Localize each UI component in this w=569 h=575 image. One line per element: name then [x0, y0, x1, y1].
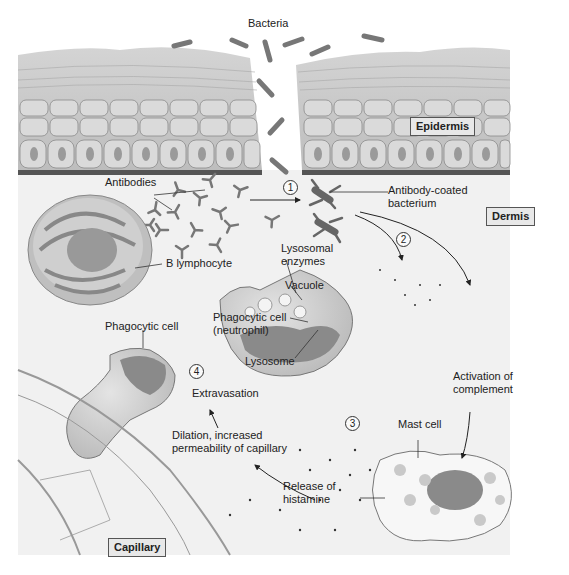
step-2-marker: 2: [396, 232, 411, 247]
label-lysosomal-1: Lysosomal: [281, 242, 333, 255]
label-extravasation: Extravasation: [192, 387, 259, 400]
label-lysosomal-2: enzymes: [281, 255, 325, 268]
label-vacuole: Vacuole: [285, 279, 324, 292]
label-activation-1: Activation of: [453, 370, 513, 383]
label-dilation-2: permeability of capillary: [172, 442, 287, 455]
label-lysosome: Lysosome: [245, 355, 295, 368]
label-antibody-coated-2: bacterium: [388, 197, 436, 210]
label-b-lymphocyte: B lymphocyte: [166, 257, 232, 270]
mast-cell: [373, 451, 512, 541]
label-histamine-1: Release of: [283, 480, 336, 493]
label-activation-2: complement: [453, 383, 513, 396]
step-3-marker: 3: [345, 416, 360, 431]
label-antibody-coated-1: Antibody-coated: [388, 184, 468, 197]
label-antibodies: Antibodies: [105, 176, 156, 189]
label-dilation-1: Dilation, increased: [172, 429, 263, 442]
label-mast-cell: Mast cell: [398, 418, 441, 431]
step-4-marker: 4: [189, 364, 204, 379]
label-dermis: Dermis: [486, 207, 535, 226]
step-1-marker: 1: [283, 180, 298, 195]
label-bacteria: Bacteria: [248, 17, 288, 30]
label-histamine-2: histamine: [283, 493, 330, 506]
inflammation-diagram: Bacteria Epidermis Dermis Capillary Anti…: [0, 0, 569, 575]
label-phagocytic-neutrophil-1: Phagocytic cell: [213, 311, 286, 324]
label-capillary: Capillary: [108, 538, 166, 557]
label-phagocytic-cell: Phagocytic cell: [105, 320, 178, 333]
label-phagocytic-neutrophil-2: (neutrophil): [213, 324, 269, 337]
b-lymphocyte: [28, 195, 152, 305]
label-epidermis: Epidermis: [410, 117, 475, 136]
